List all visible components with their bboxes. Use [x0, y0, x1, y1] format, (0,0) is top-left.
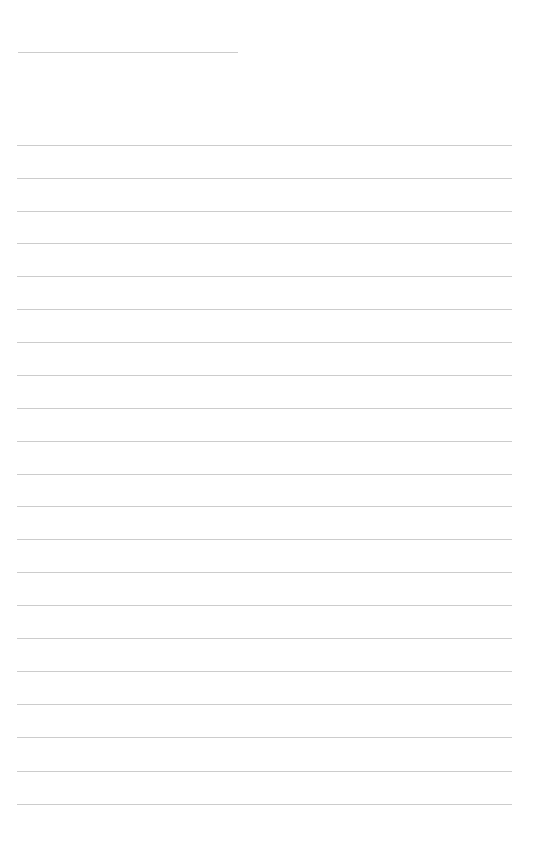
ruled-line — [17, 804, 512, 805]
ruled-line — [17, 309, 512, 310]
ruled-line — [17, 506, 512, 507]
lined-page — [0, 0, 536, 863]
ruled-line — [17, 572, 512, 573]
ruled-line — [17, 342, 512, 343]
ruled-line — [17, 243, 512, 244]
ruled-line — [17, 737, 512, 738]
ruled-line — [17, 178, 512, 179]
ruled-line — [17, 474, 512, 475]
ruled-line — [17, 441, 512, 442]
ruled-line — [17, 671, 512, 672]
ruled-line — [17, 211, 512, 212]
ruled-line — [17, 408, 512, 409]
header-title-line — [18, 52, 238, 53]
ruled-line — [17, 539, 512, 540]
ruled-line — [17, 375, 512, 376]
ruled-line — [17, 704, 512, 705]
ruled-line — [17, 638, 512, 639]
ruled-line — [17, 771, 512, 772]
ruled-line — [17, 276, 512, 277]
ruled-line — [17, 145, 512, 146]
ruled-line — [17, 605, 512, 606]
